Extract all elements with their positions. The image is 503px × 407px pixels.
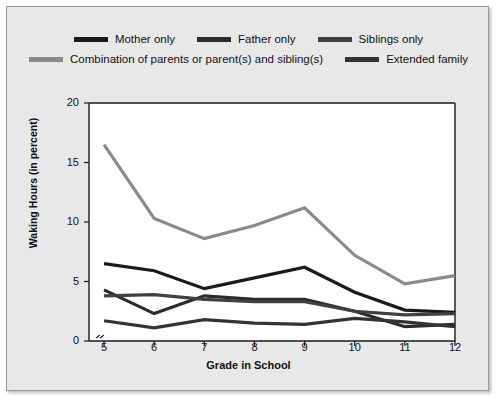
y-tick-label: 5 [53, 275, 79, 287]
x-tick-label: 12 [442, 341, 468, 353]
x-tick-label: 8 [241, 341, 267, 353]
x-tick-label: 11 [392, 341, 418, 353]
y-tick-label: 0 [53, 334, 79, 346]
y-axis-label: Waking Hours (in percent) [27, 103, 39, 263]
x-tick-label: 10 [342, 341, 368, 353]
y-tick-label: 15 [53, 156, 79, 168]
x-tick-label: 6 [141, 341, 167, 353]
chart-plot-svg [7, 7, 490, 392]
plot-area-wrapper: Waking Hours (in percent) Grade in Schoo… [7, 7, 490, 392]
y-tick-label: 20 [53, 96, 79, 108]
x-tick-label: 7 [191, 341, 217, 353]
x-tick-label: 5 [91, 341, 117, 353]
chart-figure: Mother only Father only Siblings only Co… [6, 6, 489, 391]
y-tick-label: 10 [53, 215, 79, 227]
plot-background [89, 103, 455, 341]
x-tick-label: 9 [292, 341, 318, 353]
x-axis-label: Grade in School [7, 359, 490, 371]
